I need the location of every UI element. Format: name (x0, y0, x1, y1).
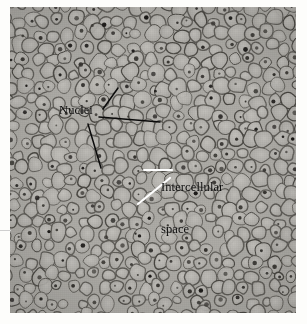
nucleus (28, 231, 32, 235)
nucleus (225, 152, 228, 155)
cell (166, 43, 181, 54)
nucleus (160, 47, 163, 50)
cell (106, 226, 121, 241)
label-intercellular-line2: space (161, 222, 223, 236)
nucleus (72, 209, 74, 211)
nucleus (273, 73, 276, 76)
nucleus (244, 127, 247, 130)
nucleus (175, 88, 177, 90)
nucleus (238, 216, 242, 220)
nucleus (111, 113, 113, 115)
nucleus (149, 248, 153, 252)
nucleus (263, 29, 267, 33)
nucleus (149, 197, 154, 202)
nucleus (195, 7, 198, 10)
nucleus (129, 182, 131, 184)
nucleus (97, 70, 102, 75)
nucleus (230, 43, 234, 47)
nucleus (111, 31, 115, 35)
nucleus (144, 15, 149, 20)
nucleus (101, 260, 105, 264)
cell (257, 106, 268, 118)
nucleus (108, 84, 110, 86)
nucleus (245, 101, 247, 103)
nucleus (255, 46, 259, 50)
nucleus (153, 299, 157, 303)
nucleus (162, 305, 164, 307)
nucleus (117, 180, 122, 185)
cell (129, 29, 140, 38)
nucleus (91, 24, 94, 27)
cell (223, 93, 235, 104)
nucleus (102, 23, 106, 27)
cell (78, 174, 91, 188)
cell (130, 264, 146, 281)
cell (95, 119, 111, 134)
nucleus (21, 35, 24, 38)
nucleus (278, 276, 281, 279)
nucleus (38, 87, 41, 90)
nucleus (240, 18, 242, 20)
nucleus (25, 85, 27, 87)
nucleus (211, 21, 215, 25)
nucleus (277, 223, 279, 225)
nucleus (114, 285, 116, 287)
nucleus (254, 127, 257, 130)
cell (173, 30, 190, 43)
nucleus (107, 189, 110, 192)
nucleus (95, 83, 98, 86)
nucleus (276, 244, 279, 247)
nucleus (115, 258, 119, 262)
nucleus (59, 73, 62, 76)
cell (19, 267, 33, 282)
nucleus (218, 114, 223, 119)
nucleus (134, 233, 136, 235)
nucleus (209, 85, 213, 89)
nucleus (23, 110, 27, 114)
cell (67, 202, 79, 214)
nucleus (156, 284, 160, 288)
nucleus (23, 193, 26, 196)
nucleus (177, 115, 180, 118)
nucleus (62, 259, 64, 261)
nucleus (63, 219, 67, 223)
nucleus (91, 204, 95, 208)
nucleus (204, 302, 209, 307)
nucleus (81, 83, 85, 87)
nucleus (125, 32, 127, 34)
cell (110, 281, 124, 293)
cell (36, 110, 47, 123)
nucleus (68, 155, 72, 159)
nucleus (282, 291, 284, 293)
nucleus (234, 166, 237, 169)
cell (116, 268, 129, 279)
cell (113, 132, 132, 148)
cell (45, 240, 54, 251)
nucleus (54, 284, 57, 287)
nucleus (137, 274, 139, 276)
nucleus (131, 49, 134, 52)
cell (133, 91, 151, 108)
nucleus (263, 168, 267, 172)
nucleus (252, 261, 256, 265)
cell (244, 159, 256, 172)
nucleus (123, 300, 125, 302)
nucleus (51, 303, 53, 305)
nucleus (68, 43, 72, 47)
cell (225, 67, 236, 78)
nucleus (134, 56, 139, 61)
cell (10, 96, 26, 109)
nucleus (43, 103, 46, 106)
micrograph-cells (10, 7, 296, 313)
cell (222, 279, 235, 294)
nucleus (55, 18, 58, 21)
nucleus (186, 20, 188, 22)
nucleus (94, 169, 96, 171)
nucleus (10, 298, 14, 302)
cell (102, 165, 115, 175)
nucleus (101, 97, 106, 102)
nucleus (235, 138, 238, 141)
cell (154, 308, 164, 313)
nucleus (15, 184, 18, 187)
nucleus (21, 57, 25, 61)
